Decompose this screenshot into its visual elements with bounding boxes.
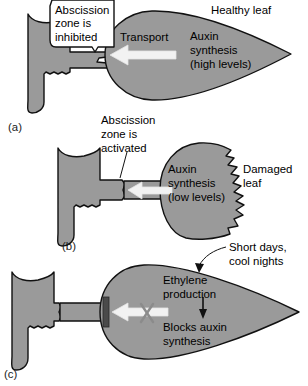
panel-c-stem-and-petiole bbox=[12, 272, 61, 370]
panel-b-synthesis-line1: Auxin bbox=[168, 163, 197, 175]
panel-c-blocks-line1: Blocks auxin bbox=[163, 321, 227, 333]
panel-a-healthy-leaf-label: Healthy leaf bbox=[211, 4, 272, 16]
panel-a-abscission-label-line3: inhibited bbox=[55, 31, 97, 43]
panel-c-blocks-line2: synthesis bbox=[163, 335, 211, 347]
panel-a-abscission-label-line2: zone is bbox=[55, 17, 91, 29]
panel-a-abscission-label-line1: Abscission bbox=[55, 4, 109, 16]
panel-b-stem-and-petiole bbox=[58, 148, 125, 246]
panel-a-synthesis-line1: Auxin bbox=[190, 30, 219, 42]
panel-b-tag: (b) bbox=[62, 240, 76, 252]
panel-b-leader-line bbox=[120, 152, 127, 178]
panel-c-ethylene-line2: production bbox=[163, 288, 216, 300]
panel-c-trigger-leader-line bbox=[199, 247, 226, 266]
panel-c-petiole-segment bbox=[60, 303, 106, 321]
diagram-canvas: Abscission zone is inhibited Healthy lea… bbox=[0, 0, 308, 386]
panel-c-blocking-bar bbox=[103, 297, 109, 327]
panel-b-group: Abscission zone is activated Auxin synth… bbox=[58, 114, 293, 252]
panel-b-damaged-leaf-line1: Damaged bbox=[243, 163, 292, 175]
panel-a-synthesis-line3: (high levels) bbox=[190, 58, 252, 70]
panel-c-trigger-line1: Short days, bbox=[229, 241, 287, 253]
panel-b-synthesis-line2: synthesis bbox=[168, 177, 216, 189]
abscission-diagram: Abscission zone is inhibited Healthy lea… bbox=[0, 0, 308, 386]
panel-c-ethylene-line1: Ethylene bbox=[163, 274, 207, 286]
panel-b-abscission-label-line1: Abscission bbox=[101, 114, 155, 126]
caption-fragment bbox=[14, 379, 304, 386]
panel-a-synthesis-line2: synthesis bbox=[190, 44, 238, 56]
panel-a-tag: (a) bbox=[8, 121, 22, 133]
panel-c-group: Short days, cool nights Ethylene product… bbox=[4, 241, 299, 380]
panel-c-trigger-line2: cool nights bbox=[229, 255, 284, 267]
panel-a-transport-label: Transport bbox=[120, 31, 169, 43]
panel-b-abscission-label-line2: zone is bbox=[101, 128, 137, 140]
panel-b-synthesis-line3: (low levels) bbox=[168, 191, 225, 203]
panel-b-abscission-label-line3: activated bbox=[101, 142, 147, 154]
panel-b-damaged-leaf-line2: leaf bbox=[243, 177, 262, 189]
panel-c-trigger-arrowhead bbox=[195, 263, 204, 273]
